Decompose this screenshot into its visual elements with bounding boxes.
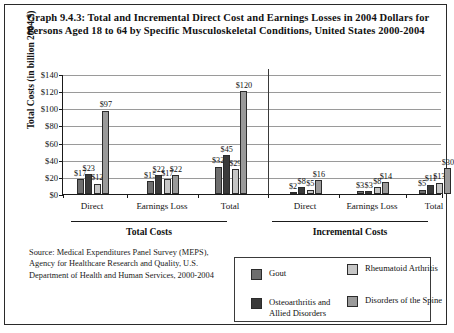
bar xyxy=(164,179,171,194)
gridline xyxy=(63,144,441,145)
bar xyxy=(365,191,372,194)
bar xyxy=(215,167,222,194)
x-category-label: Earnings Loss xyxy=(136,201,187,211)
bar-value-label: $23 xyxy=(83,165,95,173)
chart-legend: GoutRheumatoid ArthritisOsteoarthritis a… xyxy=(234,257,431,322)
legend-swatch-icon xyxy=(251,298,262,309)
source-note: Source: Medical Expenditures Panel Surve… xyxy=(29,247,225,281)
bar-value-label: $16 xyxy=(313,171,325,179)
bar xyxy=(419,190,426,194)
x-category-label: Total xyxy=(221,201,239,211)
bar xyxy=(102,111,109,194)
bar-value-label: $3 xyxy=(356,182,364,190)
x-tick-mark xyxy=(442,194,443,198)
legend-label: Disorders of the Spine xyxy=(365,295,447,306)
bar xyxy=(357,191,364,194)
section-divider xyxy=(268,69,269,194)
bar-value-label: $120 xyxy=(236,82,252,90)
bar xyxy=(436,183,443,194)
x-tick-mark xyxy=(268,194,269,198)
y-tick-label: $100 xyxy=(29,105,63,113)
chart-title: Graph 9.4.3: Total and Incremental Direc… xyxy=(27,11,431,37)
bar xyxy=(172,175,179,194)
bar xyxy=(155,175,162,194)
gridline xyxy=(63,109,441,110)
section-header: Total Costs xyxy=(126,226,172,237)
bar xyxy=(374,187,381,194)
bar-value-label: $14 xyxy=(380,173,392,181)
x-tick-mark xyxy=(406,194,407,198)
x-tick-mark xyxy=(339,194,340,198)
bar xyxy=(382,182,389,194)
y-tick-label: $20 xyxy=(29,174,63,182)
bar-value-label: $8 xyxy=(298,178,306,186)
gridline xyxy=(63,75,441,76)
x-category-label: Direct xyxy=(294,201,317,211)
bar-value-label: $45 xyxy=(221,146,233,154)
x-tick-mark xyxy=(63,194,64,198)
bar xyxy=(77,179,84,194)
y-tick-label: $120 xyxy=(29,88,63,96)
bar xyxy=(147,181,154,194)
legend-label: Gout xyxy=(269,268,351,279)
bar xyxy=(94,184,101,194)
bar xyxy=(444,168,451,194)
legend-swatch-icon xyxy=(347,264,358,275)
section-rule xyxy=(71,221,227,222)
gridline xyxy=(63,126,441,127)
x-category-label: Total xyxy=(425,201,443,211)
bar-value-label: $3 xyxy=(365,182,373,190)
bar-value-label: $22 xyxy=(170,166,182,174)
bar xyxy=(240,91,247,194)
section-header: Incremental Costs xyxy=(313,226,388,237)
x-tick-mark xyxy=(127,194,128,198)
bar-value-label: $30 xyxy=(442,159,454,167)
figure-frame: Graph 9.4.3: Total and Incremental Direc… xyxy=(4,4,447,325)
x-category-label: Earnings Loss xyxy=(346,201,397,211)
y-tick-label: $0 xyxy=(29,191,63,199)
gridline xyxy=(63,92,441,93)
y-tick-label: $60 xyxy=(29,140,63,148)
legend-label: Rheumatoid Arthritis xyxy=(365,263,447,274)
gridline xyxy=(63,161,441,162)
x-tick-mark xyxy=(198,194,199,198)
y-tick-label: $80 xyxy=(29,122,63,130)
bar xyxy=(307,190,314,194)
bar xyxy=(232,169,239,194)
x-category-label: Direct xyxy=(81,201,104,211)
bar xyxy=(427,185,434,194)
legend-swatch-icon xyxy=(251,269,262,280)
legend-label: Osteoarthritis and Allied Disorders xyxy=(269,297,351,318)
y-tick-label: $140 xyxy=(29,71,63,79)
bar-value-label: $2 xyxy=(289,183,297,191)
section-rule xyxy=(272,221,428,222)
bar xyxy=(290,192,297,194)
y-tick-label: $40 xyxy=(29,157,63,165)
bar-value-label: $97 xyxy=(100,101,112,109)
bar xyxy=(298,187,305,194)
legend-swatch-icon xyxy=(347,296,358,307)
plot-area: $0$20$40$60$80$100$120$140 $17$23$12$97$… xyxy=(62,75,441,195)
bar xyxy=(315,180,322,194)
bar-value-label: $5 xyxy=(306,180,314,188)
